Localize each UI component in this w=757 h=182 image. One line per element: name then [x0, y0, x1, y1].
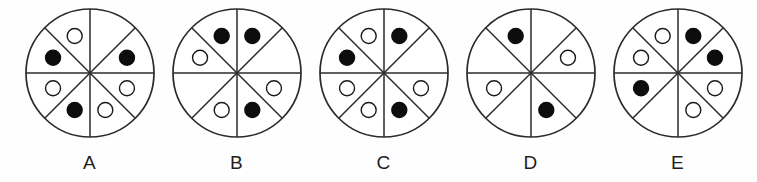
figure-option-a[interactable]: A: [16, 0, 163, 182]
white-dot-left-lower: [486, 81, 501, 96]
figure-option-e[interactable]: E: [604, 0, 751, 182]
white-dot-left-lower: [339, 81, 354, 96]
circle-b-wheel[interactable]: [170, 6, 304, 140]
figure-option-d[interactable]: D: [457, 0, 604, 182]
white-dot-right-upper: [560, 50, 575, 65]
black-dot-bottom-right: [538, 102, 553, 117]
figure-label-a: A: [83, 153, 96, 172]
figure-option-b[interactable]: B: [163, 0, 310, 182]
circle-b-diagram: [170, 6, 304, 140]
black-dot-left-upper: [45, 50, 60, 65]
circle-e-wheel[interactable]: [611, 6, 745, 140]
white-dot-right-lower: [707, 81, 722, 96]
circle-c-diagram: [317, 6, 451, 140]
figure-panel: ABCDE: [0, 0, 757, 182]
black-dot-top-right: [685, 29, 700, 44]
black-dot-top-left: [214, 29, 229, 44]
white-dot-bottom-left: [214, 102, 229, 117]
circle-options-row: ABCDE: [0, 0, 757, 182]
white-dot-top-left: [655, 29, 670, 44]
figure-option-c[interactable]: C: [310, 0, 457, 182]
circle-e-diagram: [611, 6, 745, 140]
white-dot-left-upper: [633, 50, 648, 65]
white-dot-left-upper: [192, 50, 207, 65]
black-dot-left-lower: [633, 81, 648, 96]
black-dot-bottom-left: [67, 102, 82, 117]
circle-d-diagram: [464, 6, 598, 140]
figure-label-b: B: [230, 153, 243, 172]
figure-label-c: C: [376, 153, 390, 172]
black-dot-bottom-right: [244, 102, 259, 117]
circle-a-wheel[interactable]: [23, 6, 157, 140]
circle-d-wheel[interactable]: [464, 6, 598, 140]
white-dot-bottom-left: [361, 102, 376, 117]
white-dot-top-left: [67, 29, 82, 44]
white-dot-bottom-right: [97, 102, 112, 117]
circle-a-diagram: [23, 6, 157, 140]
black-dot-top-right: [244, 29, 259, 44]
white-dot-left-lower: [45, 81, 60, 96]
black-dot-bottom-right: [391, 102, 406, 117]
black-dot-right-upper: [119, 50, 134, 65]
figure-label-d: D: [523, 153, 537, 172]
white-dot-right-lower: [266, 81, 281, 96]
white-dot-right-lower: [119, 81, 134, 96]
white-dot-top-left: [361, 29, 376, 44]
figure-label-e: E: [671, 153, 684, 172]
white-dot-right-lower: [413, 81, 428, 96]
circle-c-wheel[interactable]: [317, 6, 451, 140]
black-dot-left-upper: [339, 50, 354, 65]
white-dot-bottom-right: [685, 102, 700, 117]
black-dot-right-upper: [707, 50, 722, 65]
black-dot-top-left: [508, 29, 523, 44]
black-dot-top-right: [391, 29, 406, 44]
